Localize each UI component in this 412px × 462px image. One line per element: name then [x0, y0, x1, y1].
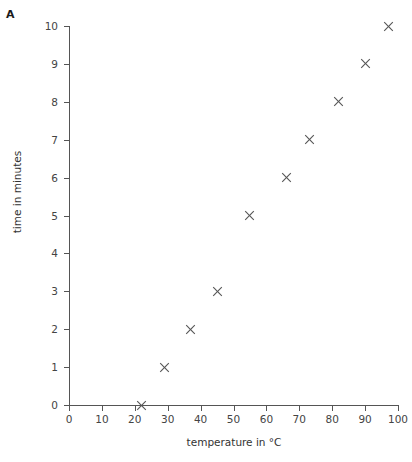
- y-axis-tick-label: 0: [10, 400, 58, 411]
- y-axis-tick-label: 8: [10, 97, 58, 108]
- y-axis-tick-label: 1: [10, 362, 58, 373]
- x-axis-tick: [332, 406, 333, 411]
- x-axis-tick: [365, 406, 366, 411]
- x-axis-tick: [266, 406, 267, 411]
- panel-label: A: [6, 8, 15, 21]
- x-axis-tick-label: 100: [378, 414, 412, 425]
- data-point-marker: [383, 21, 394, 32]
- data-point-marker: [304, 134, 315, 145]
- y-axis-tick-label: 10: [10, 21, 58, 32]
- data-point-marker: [360, 58, 371, 69]
- data-point-marker: [136, 400, 147, 411]
- x-axis-tick: [168, 406, 169, 411]
- x-axis-tick: [69, 406, 70, 411]
- data-point-marker: [281, 172, 292, 183]
- scatter-plot-figure: A 012345678910 0102030405060708090100 te…: [0, 0, 412, 462]
- y-axis-tick-label: 9: [10, 59, 58, 70]
- data-point-marker: [185, 324, 196, 335]
- y-axis-tick-label: 3: [10, 286, 58, 297]
- plot-area: [69, 26, 398, 405]
- data-point-marker: [244, 210, 255, 221]
- data-point-marker: [333, 96, 344, 107]
- x-axis-tick: [398, 406, 399, 411]
- x-axis-title: temperature in °C: [69, 436, 399, 448]
- x-axis-tick: [299, 406, 300, 411]
- y-axis-tick-label: 2: [10, 324, 58, 335]
- data-point-marker: [212, 286, 223, 297]
- x-axis-tick: [201, 406, 202, 411]
- x-axis-tick: [102, 406, 103, 411]
- data-point-marker: [159, 362, 170, 373]
- y-axis-title: time in minutes: [11, 112, 23, 272]
- x-axis-tick: [234, 406, 235, 411]
